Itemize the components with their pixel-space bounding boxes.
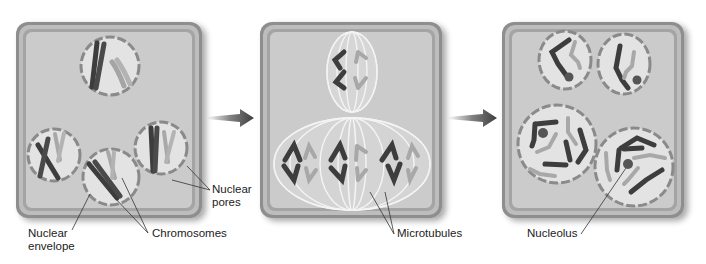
cell-stage-1 — [16, 22, 202, 218]
label-line: envelope — [28, 240, 75, 253]
nucleolus — [565, 73, 574, 82]
mitosis-diagram: Nuclear pores Nuclear envelope Chromosom… — [0, 0, 706, 264]
nucleus — [539, 31, 591, 89]
nucleus — [135, 122, 187, 174]
nucleus — [81, 37, 139, 95]
label-microtubules: Microtubules — [397, 227, 462, 240]
cell-stage-3 — [502, 22, 684, 218]
label-line: Nucleolus — [527, 227, 578, 240]
nucleus — [28, 129, 80, 181]
label-nucleolus: Nucleolus — [527, 227, 578, 240]
label-line: Nuclear — [28, 227, 75, 240]
arrow-stage-2-to-3 — [448, 109, 497, 127]
nucleus — [518, 105, 596, 183]
spindle — [327, 32, 377, 112]
nucleolus — [623, 159, 633, 169]
label-chromosomes: Chromosomes — [152, 227, 227, 240]
label-line: pores — [212, 196, 252, 209]
nucleolus — [538, 128, 548, 138]
label-line: Nuclear — [212, 183, 252, 196]
nucleolus — [633, 76, 642, 85]
cell-stage-2 — [260, 22, 442, 218]
nucleus — [598, 34, 650, 94]
label-line: Microtubules — [397, 227, 462, 240]
nucleus — [595, 128, 673, 206]
arrow-stage-1-to-2 — [207, 109, 254, 127]
label-nuclear-envelope: Nuclear envelope — [28, 227, 75, 253]
diagram-canvas — [0, 0, 706, 264]
label-line: Chromosomes — [152, 227, 227, 240]
label-nuclear-pores: Nuclear pores — [212, 183, 252, 209]
